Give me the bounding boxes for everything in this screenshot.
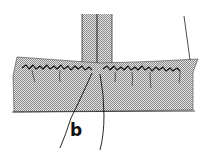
label-b: b (70, 120, 82, 140)
sewing-diagram: b (0, 0, 209, 158)
fabric-band (12, 57, 198, 112)
guide-line (184, 16, 190, 60)
